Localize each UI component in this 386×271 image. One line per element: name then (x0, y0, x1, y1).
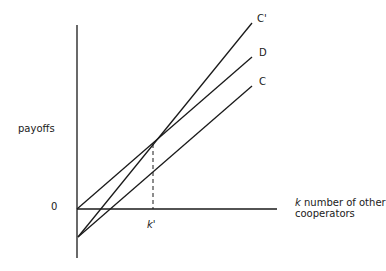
line-c-prime (78, 23, 252, 237)
y-axis-label: payoffs (18, 123, 55, 134)
x-axis-label: k number of other cooperators (295, 197, 386, 219)
origin-label: 0 (51, 201, 57, 212)
line-c (78, 86, 252, 237)
x-axis-label-line1: number of other (301, 197, 386, 208)
k-prime-label: k' (147, 219, 156, 230)
line-d (77, 57, 252, 209)
line-label-d: D (259, 47, 267, 58)
line-label-c-prime: C' (257, 13, 267, 24)
line-label-c: C (259, 76, 266, 87)
x-axis-label-line2: cooperators (295, 208, 355, 219)
